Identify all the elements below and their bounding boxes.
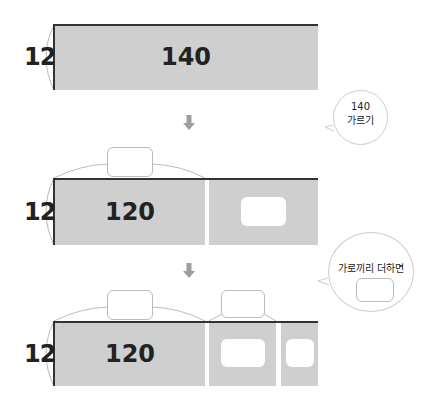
top-edge	[54, 321, 318, 323]
top-edge	[54, 178, 318, 180]
width-label: 140	[154, 45, 218, 69]
bubble-add-text: 가로끼리 더하면	[328, 263, 414, 276]
bubble-answer-box[interactable]	[356, 278, 394, 302]
height-label: 12	[24, 45, 55, 69]
top-edge	[54, 24, 318, 26]
height-label: 12	[24, 342, 55, 366]
bubble-split-line1: 140	[333, 101, 388, 114]
answer-box-top[interactable]	[107, 147, 153, 177]
height-label: 12	[24, 200, 55, 224]
width-label: 120	[98, 342, 162, 366]
answer-box-top-mid[interactable]	[221, 290, 265, 318]
down-arrow-icon	[183, 115, 195, 131]
answer-box-small[interactable]	[286, 339, 314, 367]
width-label: 120	[98, 200, 162, 224]
answer-box-mid[interactable]	[221, 339, 265, 367]
answer-box-top-left[interactable]	[107, 290, 153, 320]
answer-box-remainder[interactable]	[241, 197, 286, 226]
bubble-split-line2: 가르기	[333, 115, 388, 128]
down-arrow-icon	[183, 263, 195, 279]
